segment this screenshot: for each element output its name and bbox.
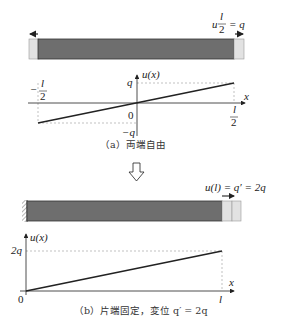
displacement-line xyxy=(26,251,222,291)
fixed-bar: u(l) = q′ = 2q xyxy=(22,181,266,222)
bar-a-frac-num: l xyxy=(220,10,223,22)
graph-a: u(x) x q −q 0 − l 2 l 2 xyxy=(28,68,249,138)
free-bar: u l 2 = q xyxy=(29,10,245,59)
svg-text:x: x xyxy=(228,276,234,288)
bar-body xyxy=(38,39,234,59)
bar-a-u: u xyxy=(212,18,218,30)
bar-right-end xyxy=(234,39,244,59)
svg-text:l: l xyxy=(41,77,44,89)
svg-text:0: 0 xyxy=(18,293,24,305)
svg-text:−q: −q xyxy=(122,126,135,138)
graph-b: u(x) x 2q 0 l xyxy=(11,231,234,305)
svg-text:2q: 2q xyxy=(11,244,23,256)
bar-a-frac-den: 2 xyxy=(219,23,225,35)
svg-text:2: 2 xyxy=(231,116,237,128)
svg-text:2: 2 xyxy=(40,90,46,102)
caption-b: （b）片端固定，変位 q′ = 2q xyxy=(74,305,207,316)
svg-text:x: x xyxy=(243,90,249,102)
svg-text:l: l xyxy=(233,103,236,115)
svg-text:u(x): u(x) xyxy=(142,68,160,81)
svg-text:q: q xyxy=(127,76,133,88)
svg-text:u(x): u(x) xyxy=(30,231,48,244)
caption-a: （a）両端自由 xyxy=(100,139,166,150)
bar-b-label: u(l) = q′ = 2q xyxy=(205,181,266,194)
svg-text:0: 0 xyxy=(128,109,134,121)
svg-text:l: l xyxy=(219,293,222,305)
bar-body xyxy=(27,201,222,221)
down-hollow-arrow-icon xyxy=(129,163,144,181)
fixed-wall-hatch-icon xyxy=(22,200,27,222)
displacement-diagram: u l 2 = q u(x) x q −q 0 − l 2 l 2 （a）両端自… xyxy=(0,0,283,332)
bar-left-end xyxy=(29,39,39,59)
bar-a-eq: = q xyxy=(229,18,245,30)
svg-text:−: − xyxy=(30,83,37,95)
